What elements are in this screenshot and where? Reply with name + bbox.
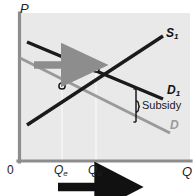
demand-new-curve-label-main: D [167,83,176,97]
plot-area-background [18,13,190,162]
demand-original-curve-label: D [170,119,179,131]
tick-label-qo-main: Q [88,163,97,177]
supply-curve-label: S1 [166,27,178,39]
demand-new-curve-label-sub: 1 [176,89,180,98]
supply-curve-label-sub: 1 [174,32,178,41]
subsidy-label: Subsidy [142,100,181,111]
y-axis-label: P [20,2,29,15]
x-axis-label: Q [182,165,192,178]
demand-new-curve-label: D1 [167,84,180,96]
supply-demand-subsidy-diagram: P Q 0 Qe Qo S1 D1 D Subsidy [0,0,196,196]
equilibrium-point-new [93,66,99,72]
tick-label-qo: Qo [88,164,102,176]
supply-curve-label-main: S [166,26,174,40]
tick-label-qe: Qe [54,164,68,176]
equilibrium-point-initial [59,83,65,89]
tick-label-qe-sub: e [63,169,67,178]
tick-label-qo-sub: o [97,169,101,178]
origin-label: 0 [7,164,14,176]
tick-label-qe-main: Q [54,163,63,177]
